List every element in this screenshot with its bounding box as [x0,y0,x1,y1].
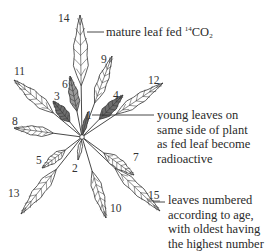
leaf-number-4: 4 [113,89,119,101]
leaf-number-10: 10 [110,202,122,214]
young-leaves-annotation: young leaves on same side of plant as fe… [157,108,250,166]
leaf-number-13: 13 [8,187,20,199]
leaf-6-radioactive [68,76,79,111]
numbering-annotation: leaves numbered according to age, with o… [168,193,264,251]
leaf-number-14: 14 [58,12,70,24]
leaf-number-1: 1 [86,109,92,121]
leaf-number-2: 2 [72,162,78,174]
leaf-14 [73,15,88,86]
leaf-number-3: 3 [54,90,60,102]
molecule-subscript: 2 [209,32,213,40]
leaf-13 [21,169,56,214]
fed-leaf-text: mature leaf fed [106,25,185,39]
young-leaves-line-3: as fed leaf become [157,137,250,152]
leaf-number-6: 6 [62,78,68,90]
numbering-line-1: leaves numbered [168,193,264,208]
leaf-number-12: 12 [148,74,160,86]
stem-center [80,135,85,140]
leaf-5 [42,150,65,168]
leaf-number-9: 9 [101,53,107,65]
numbering-line-3: with oldest having [168,222,264,237]
leaf-number-7: 7 [133,151,139,163]
leaf-number-15: 15 [148,189,160,201]
leaf-4-radioactive [99,95,123,120]
leaf-stem-14 [81,86,82,137]
numbering-line-2: according to age, [168,208,264,223]
leaf-8 [14,126,53,137]
young-leaves-line-4: radioactive [157,152,250,167]
leaf-10 [91,171,107,218]
leaf-number-8: 8 [12,115,18,127]
young-leaves-line-1: young leaves on [157,108,250,123]
isotope-superscript: 14 [185,25,192,33]
molecule-text: CO [192,25,209,39]
leaf-number-11: 11 [14,65,25,77]
leaf-11 [14,80,53,113]
fed-leaf-annotation: mature leaf fed 14CO2 [106,22,213,44]
leaf-2 [77,140,82,160]
young-leaves-line-2: same side of plant [157,123,250,138]
leaf-stem-7 [82,137,104,153]
leaf-3-radioactive [52,101,69,122]
leaf-12 [116,83,163,114]
leaf-number-5: 5 [36,154,42,166]
numbering-line-4: the highest number [168,237,264,251]
